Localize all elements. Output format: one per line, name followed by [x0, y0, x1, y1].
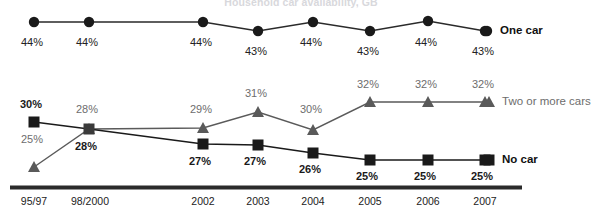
value-label-two-or-more-cars: 32% — [472, 79, 494, 90]
value-label-one-car: 44% — [76, 37, 98, 48]
x-axis-tick-label: 2002 — [178, 196, 228, 207]
value-label-no-car: 28% — [75, 141, 97, 152]
legend-label-no-car: No car — [502, 154, 538, 166]
data-point-no-car — [29, 117, 40, 128]
value-label-one-car: 43% — [245, 46, 267, 57]
value-label-one-car: 43% — [472, 46, 494, 57]
value-label-no-car: 26% — [299, 164, 321, 175]
value-label-two-or-more-cars: 30% — [300, 104, 322, 115]
data-point-one-car — [198, 17, 208, 27]
value-label-two-or-more-cars: 25% — [21, 134, 43, 145]
value-label-two-or-more-cars: 31% — [245, 88, 267, 99]
x-axis-tick-label: 2003 — [233, 196, 283, 207]
value-label-two-or-more-cars: 28% — [76, 104, 98, 115]
data-point-one-car — [423, 16, 433, 26]
value-label-one-car: 44% — [190, 37, 212, 48]
value-label-no-car: 27% — [189, 156, 211, 167]
x-axis-tick-label: 2006 — [403, 196, 453, 207]
data-point-no-car — [423, 155, 434, 166]
x-axis-tick-label: 2005 — [345, 196, 395, 207]
value-label-one-car: 44% — [415, 37, 437, 48]
legend-label-one-car: One car — [500, 25, 543, 37]
data-point-one-car — [84, 17, 94, 27]
data-point-two-or-more-cars — [252, 106, 264, 117]
legend-marker-no-car-icon — [484, 155, 495, 166]
x-axis-tick-label: 2007 — [460, 196, 510, 207]
data-point-one-car — [308, 17, 318, 27]
data-point-one-car — [365, 26, 375, 36]
value-label-two-or-more-cars: 32% — [415, 79, 437, 90]
data-point-no-car — [253, 140, 264, 151]
data-point-two-or-more-cars — [28, 161, 40, 172]
data-point-two-or-more-cars — [307, 124, 319, 135]
chart-container: Household car availability, GB — [0, 0, 602, 218]
legend-label-two-or-more-cars: Two or more cars — [502, 96, 591, 108]
x-axis-tick-label: 95/97 — [9, 196, 59, 207]
value-label-two-or-more-cars: 29% — [190, 104, 212, 115]
data-point-one-car — [253, 26, 263, 36]
value-label-no-car: 30% — [20, 99, 42, 110]
data-point-one-car — [29, 17, 39, 27]
x-axis-tick-label: 98/2000 — [59, 196, 121, 207]
data-point-no-car — [198, 139, 209, 150]
value-label-no-car: 25% — [471, 171, 493, 182]
value-label-no-car: 27% — [244, 156, 266, 167]
value-label-no-car: 25% — [356, 171, 378, 182]
value-label-two-or-more-cars: 32% — [357, 79, 379, 90]
value-label-one-car: 43% — [357, 46, 379, 57]
value-label-one-car: 44% — [21, 37, 43, 48]
data-point-no-car — [308, 148, 319, 159]
value-label-no-car: 25% — [414, 171, 436, 182]
x-axis-tick-label: 2004 — [288, 196, 338, 207]
data-point-no-car — [84, 124, 95, 135]
data-point-no-car — [365, 155, 376, 166]
value-label-one-car: 44% — [300, 37, 322, 48]
legend-marker-one-car-icon — [482, 26, 492, 36]
